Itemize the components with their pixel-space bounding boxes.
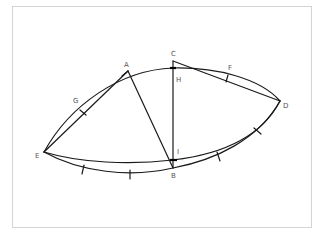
label-f: F xyxy=(228,64,232,72)
geometry-diagram: A C H F G D E I B xyxy=(0,0,323,238)
segment-ab xyxy=(128,71,173,168)
segment-ea xyxy=(44,71,128,152)
label-d: D xyxy=(283,102,288,110)
label-i: I xyxy=(177,148,179,156)
label-h: H xyxy=(176,76,181,84)
lower-inner-arc xyxy=(44,101,280,163)
label-e: E xyxy=(35,152,39,160)
label-g: G xyxy=(73,97,78,105)
label-b: B xyxy=(171,172,176,180)
segment-a-tip xyxy=(122,71,128,76)
lower-outer-arc xyxy=(44,101,280,173)
label-c: C xyxy=(171,50,176,58)
label-a: A xyxy=(124,61,129,69)
